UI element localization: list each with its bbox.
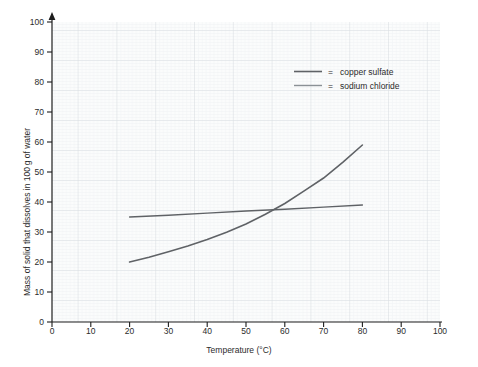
x-tick-label-80: 80 [350, 326, 374, 336]
y-axis-ticks [47, 22, 52, 322]
x-tick-label-90: 90 [389, 326, 413, 336]
x-tick-label-70: 70 [312, 326, 336, 336]
x-tick-label-30: 30 [156, 326, 180, 336]
chart-canvas [0, 0, 478, 367]
legend-equals-copper-sulfate: = [328, 67, 333, 77]
y-tick-label-100: 100 [18, 17, 44, 27]
legend-equals-sodium-chloride: = [328, 81, 333, 91]
x-axis-title: Temperature (°C) [0, 345, 478, 355]
y-axis-title: Mass of solid that dissolves in 100 g of… [22, 128, 32, 296]
legend-label-sodium-chloride: sodium chloride [340, 81, 400, 91]
x-tick-label-0: 0 [40, 326, 64, 336]
solubility-chart-figure: 0 10 20 30 40 50 60 70 80 90 100 0 10 20… [0, 0, 478, 367]
x-tick-label-50: 50 [234, 326, 258, 336]
y-tick-label-80: 80 [22, 77, 44, 87]
y-tick-label-70: 70 [22, 107, 44, 117]
legend-label-copper-sulfate: copper sulfate [340, 67, 393, 77]
y-axis-arrow-icon [49, 12, 56, 20]
x-tick-label-60: 60 [273, 326, 297, 336]
x-tick-label-20: 20 [118, 326, 142, 336]
x-tick-label-10: 10 [79, 326, 103, 336]
y-tick-label-90: 90 [22, 47, 44, 57]
x-tick-label-100: 100 [428, 326, 452, 336]
x-tick-label-40: 40 [195, 326, 219, 336]
